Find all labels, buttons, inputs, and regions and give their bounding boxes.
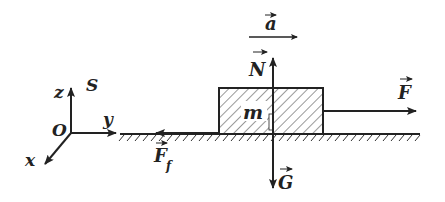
normal-force-label: N (248, 52, 267, 80)
diagram-canvas: z S O y x m a N G F F (0, 0, 445, 202)
ground-hatch-tick (159, 135, 164, 141)
ground-surface (119, 134, 420, 141)
z-axis-label: z (53, 82, 64, 102)
ground-hatch-tick (375, 135, 380, 141)
free-body-diagram: z S O y x m a N G F F (0, 0, 445, 202)
y-axis-label: y (102, 109, 114, 129)
block-mass-label: m (243, 101, 263, 123)
ground-hatch-tick (263, 135, 268, 141)
friction-force-subscript: f (165, 159, 173, 173)
ground-hatch-tick (207, 135, 212, 141)
ground-hatch-tick (351, 135, 356, 141)
ground-hatch-tick (367, 135, 372, 141)
frame-label: S (86, 75, 98, 95)
ground-hatch-tick (167, 135, 172, 141)
ground-hatch-tick (119, 135, 124, 141)
applied-force-label: F (397, 79, 412, 103)
ground-hatch-tick (127, 135, 132, 141)
normal-force-symbol: N (248, 59, 267, 80)
x-axis-label: x (24, 150, 36, 170)
ground-hatch-tick (407, 135, 412, 141)
acceleration-label: a (265, 13, 277, 34)
ground-hatch-tick (143, 135, 148, 141)
gravity-force-symbol: G (278, 172, 293, 193)
ground-hatch-tick (175, 135, 180, 141)
ground-hatch-tick (359, 135, 364, 141)
ground-hatch-tick (151, 135, 156, 141)
ground-hatch-tick (199, 135, 204, 141)
friction-force-label: F f (153, 143, 173, 173)
ground-hatch-tick (247, 135, 252, 141)
ground-hatch-tick (399, 135, 404, 141)
ground-hatch-tick (415, 135, 420, 141)
origin-label: O (52, 120, 67, 140)
ground-hatch-tick (311, 135, 316, 141)
block: m (219, 88, 323, 134)
ground-hatch-tick (239, 135, 244, 141)
ground-hatch-tick (135, 135, 140, 141)
ground-hatch-tick (279, 135, 284, 141)
ground-hatch-tick (215, 135, 220, 141)
ground-hatch-tick (183, 135, 188, 141)
ground-hatch-tick (391, 135, 396, 141)
ground-hatch-tick (327, 135, 332, 141)
ground-hatch-tick (335, 135, 340, 141)
ground-hatch-tick (383, 135, 388, 141)
ground-hatch-tick (287, 135, 292, 141)
ground-hatch-tick (303, 135, 308, 141)
coordinate-axes: z S O y x (24, 75, 116, 170)
gravity-force-label: G (278, 169, 293, 193)
ground-hatch-tick (319, 135, 324, 141)
acceleration-symbol: a (265, 13, 277, 34)
ground-hatch-tick (223, 135, 228, 141)
ground-hatch-tick (295, 135, 300, 141)
ground-hatch-tick (343, 135, 348, 141)
applied-force-symbol: F (397, 82, 412, 103)
ground-hatch-tick (231, 135, 236, 141)
ground-hatch-tick (191, 135, 196, 141)
ground-hatch-tick (255, 135, 260, 141)
ground-hatch (119, 135, 420, 141)
